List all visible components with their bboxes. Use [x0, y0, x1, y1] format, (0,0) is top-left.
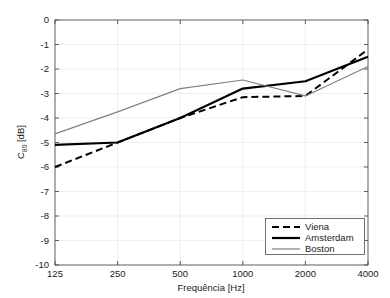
- x-axis-title: Frequência [Hz]: [177, 282, 244, 293]
- y-tick-label: -1: [41, 39, 49, 50]
- y-tick-label: -2: [41, 63, 49, 74]
- y-tick-label: -6: [41, 161, 49, 172]
- y-tick-label: -9: [41, 235, 49, 246]
- y-tick-label: -3: [41, 88, 49, 99]
- y-tick-label: -7: [41, 186, 49, 197]
- y-tick-label: -5: [41, 137, 49, 148]
- x-tick-label: 4000: [357, 268, 378, 279]
- x-tick-label: 1000: [232, 268, 253, 279]
- legend-label-amsterdam: Amsterdam: [305, 232, 354, 243]
- legend-label-boston: Boston: [305, 243, 335, 254]
- x-tick-label: 250: [110, 268, 126, 279]
- chart-plot-area: 0-1-2-3-4-5-6-7-8-9-10 12525050010002000…: [0, 0, 390, 298]
- chart-figure: 0-1-2-3-4-5-6-7-8-9-10 12525050010002000…: [0, 0, 390, 298]
- y-tick-label: -4: [41, 112, 49, 123]
- x-tick-label: 2000: [295, 268, 316, 279]
- y-axis-title-unit: [dB]: [15, 125, 26, 145]
- y-tick-label: 0: [44, 14, 49, 25]
- legend-label-viena: Viena: [305, 221, 330, 232]
- x-tick-label: 125: [47, 268, 63, 279]
- chart-legend: VienaAmsterdamBoston: [266, 219, 365, 255]
- y-tick-label: -8: [41, 210, 49, 221]
- x-tick-label: 500: [172, 268, 188, 279]
